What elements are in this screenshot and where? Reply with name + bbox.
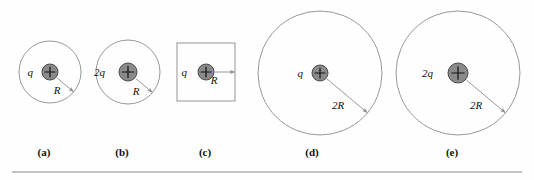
radius-label-e: 2R bbox=[470, 99, 483, 111]
radius-label-d: 2R bbox=[332, 99, 345, 111]
panel-label-c: (c) bbox=[199, 146, 211, 158]
charge-label-b: 2q bbox=[94, 66, 106, 78]
radius-label-b: R bbox=[132, 85, 140, 97]
panel-label-b: (b) bbox=[115, 146, 128, 158]
panel-label-a: (a) bbox=[38, 146, 51, 158]
panel-b: 2qR bbox=[94, 40, 160, 104]
panel-e: 2q2R bbox=[396, 11, 520, 135]
radius-label-a: R bbox=[53, 84, 61, 96]
charge-label-d: q bbox=[298, 67, 304, 79]
panel-a: qR bbox=[19, 41, 81, 103]
baseline-rule bbox=[12, 171, 522, 173]
panels-group: qR2qRqRq2R2q2R bbox=[19, 11, 520, 135]
charge-label-e: 2q bbox=[422, 67, 434, 79]
panel-label-e: (e) bbox=[446, 146, 458, 158]
physics-figure: qR2qRqRq2R2q2R (a) (b) (c) (d) (e) bbox=[0, 0, 534, 180]
charge-label-a: q bbox=[28, 66, 34, 78]
panel-c: qR bbox=[177, 43, 235, 101]
charge-label-c: q bbox=[182, 66, 188, 78]
radius-label-c: R bbox=[210, 74, 218, 86]
panel-label-d: (d) bbox=[305, 146, 318, 158]
panel-d: q2R bbox=[258, 11, 382, 135]
